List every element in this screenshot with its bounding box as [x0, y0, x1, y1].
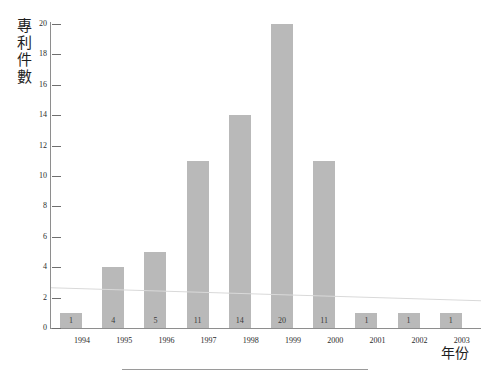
x-axis-title: 年份: [441, 345, 469, 361]
y-axis-tick-label: 20: [39, 18, 47, 29]
bar: 1: [440, 313, 462, 328]
bar: 11: [313, 161, 335, 328]
bar: 5: [144, 252, 166, 328]
y-axis-title-char: 專: [14, 18, 34, 35]
y-axis-title-char: 數: [14, 69, 34, 86]
y-axis-tick-label: 0: [43, 322, 47, 333]
bar-value-label: 14: [229, 316, 251, 325]
y-axis-tick-label: 14: [39, 109, 47, 120]
y-axis-tick-label: 6: [43, 231, 47, 242]
bar: 1: [398, 313, 420, 328]
bar: 11: [187, 161, 209, 328]
bar-value-label: 1: [60, 316, 82, 325]
y-axis-tick-label: 18: [39, 48, 47, 59]
bar-value-label: 20: [271, 316, 293, 325]
bar-value-label: 1: [440, 316, 462, 325]
bar: 1: [60, 313, 82, 328]
y-axis-tick-label: 10: [39, 170, 47, 181]
bar-value-label: 5: [144, 316, 166, 325]
y-axis-tick-label: 2: [43, 292, 47, 303]
x-axis-line: [50, 328, 481, 329]
y-axis-title-char: 利: [14, 35, 34, 52]
plot-area: 14511142011111: [51, 24, 481, 328]
y-axis-tick-mark: [52, 328, 61, 329]
bar: 1: [355, 313, 377, 328]
bar-value-label: 11: [187, 316, 209, 325]
bar-chart-figure: 專 利 件 數 02468101214161820 14511142011111…: [0, 0, 496, 381]
bar-value-label: 1: [398, 316, 420, 325]
y-axis-title: 專 利 件 數: [14, 18, 34, 86]
bar-value-label: 1: [355, 316, 377, 325]
bar: 4: [102, 267, 124, 328]
y-axis-title-char: 件: [14, 52, 34, 69]
bar-value-label: 11: [313, 316, 335, 325]
y-axis-tick-label: 12: [39, 140, 47, 151]
y-axis-tick-label: 4: [43, 261, 47, 272]
y-axis-tick-label: 16: [39, 79, 47, 90]
bar: 14: [229, 115, 251, 328]
y-axis-tick-label: 8: [43, 200, 47, 211]
bar: 20: [271, 24, 293, 328]
bottom-separator-rule: [122, 369, 368, 370]
bar-value-label: 4: [102, 316, 124, 325]
